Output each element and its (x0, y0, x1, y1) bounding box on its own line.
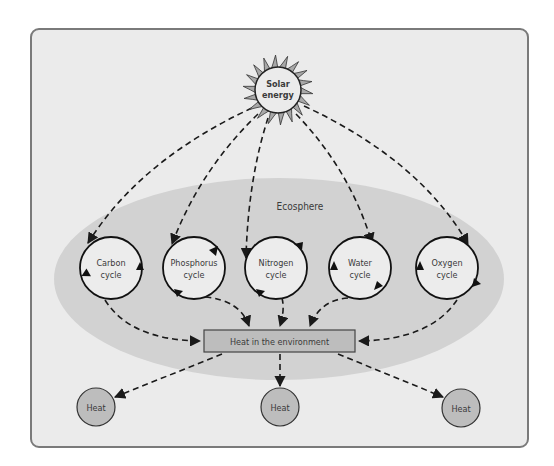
svg-text:cycle: cycle (350, 270, 371, 280)
svg-text:Nitrogen: Nitrogen (259, 258, 294, 268)
svg-text:Water: Water (348, 258, 373, 268)
cycle-phosphorus: Phosphorus cycle (163, 237, 225, 299)
svg-text:Carbon: Carbon (96, 258, 125, 268)
svg-text:Oxygen: Oxygen (431, 258, 462, 268)
heat-node-center: Heat (261, 388, 299, 426)
cycle-nitrogen: Nitrogen cycle (245, 237, 307, 299)
solar-energy-label-2: energy (262, 90, 295, 100)
ecosphere-label: Ecosphere (277, 201, 324, 212)
solar-energy-label-1: Solar (266, 79, 290, 89)
svg-text:cycle: cycle (184, 270, 205, 280)
heat-in-environment-box: Heat in the environment (204, 330, 355, 352)
svg-text:cycle: cycle (101, 270, 122, 280)
cycle-water: Water cycle (329, 237, 391, 299)
svg-text:Heat: Heat (86, 403, 105, 413)
svg-text:Heat in the environment: Heat in the environment (230, 337, 329, 347)
heat-node-right: Heat (442, 389, 480, 427)
svg-text:cycle: cycle (266, 270, 287, 280)
svg-text:Heat: Heat (270, 403, 289, 413)
ecosphere-diagram: Ecosphere Solar energy Carbon cycle Phos… (0, 0, 554, 466)
svg-text:cycle: cycle (437, 270, 458, 280)
svg-text:Heat: Heat (451, 404, 470, 414)
cycle-carbon: Carbon cycle (80, 237, 144, 299)
svg-text:Phosphorus: Phosphorus (170, 258, 217, 268)
sun-icon: Solar energy (243, 55, 313, 125)
heat-node-left: Heat (77, 388, 115, 426)
